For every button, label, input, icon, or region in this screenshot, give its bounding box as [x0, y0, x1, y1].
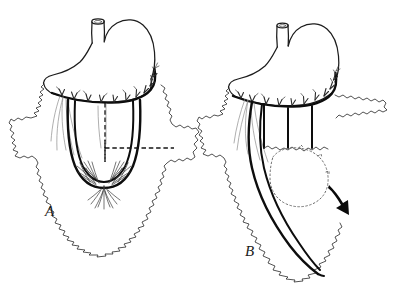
panel-b: B	[197, 23, 387, 282]
omental-vessel-plexus-a	[77, 161, 131, 209]
transposition-arrow-b	[328, 185, 349, 215]
figure-root: A	[0, 0, 398, 297]
omentum-outline-a	[9, 84, 199, 257]
omentum-outline-b	[197, 88, 387, 282]
surgical-diagram: A	[0, 0, 398, 297]
panel-label-b: B	[245, 243, 254, 259]
esophagus-stump-b	[277, 23, 289, 47]
defect-base-b	[264, 146, 328, 151]
panel-label-a: A	[44, 203, 55, 219]
stomach-body-a	[44, 20, 155, 102]
stomach-body-b	[229, 24, 339, 106]
omental-faint-vessels-a	[51, 96, 106, 158]
gastroepiploic-arcade-b	[233, 66, 340, 107]
original-position-dotted-b[interactable]	[270, 145, 329, 207]
esophagus-stump-a	[92, 19, 105, 43]
plexus-tip-a	[88, 186, 120, 209]
panel-a: A	[9, 19, 199, 257]
omental-flap-outline-a	[68, 100, 141, 188]
gastroepiploic-arcade-a	[52, 63, 159, 103]
